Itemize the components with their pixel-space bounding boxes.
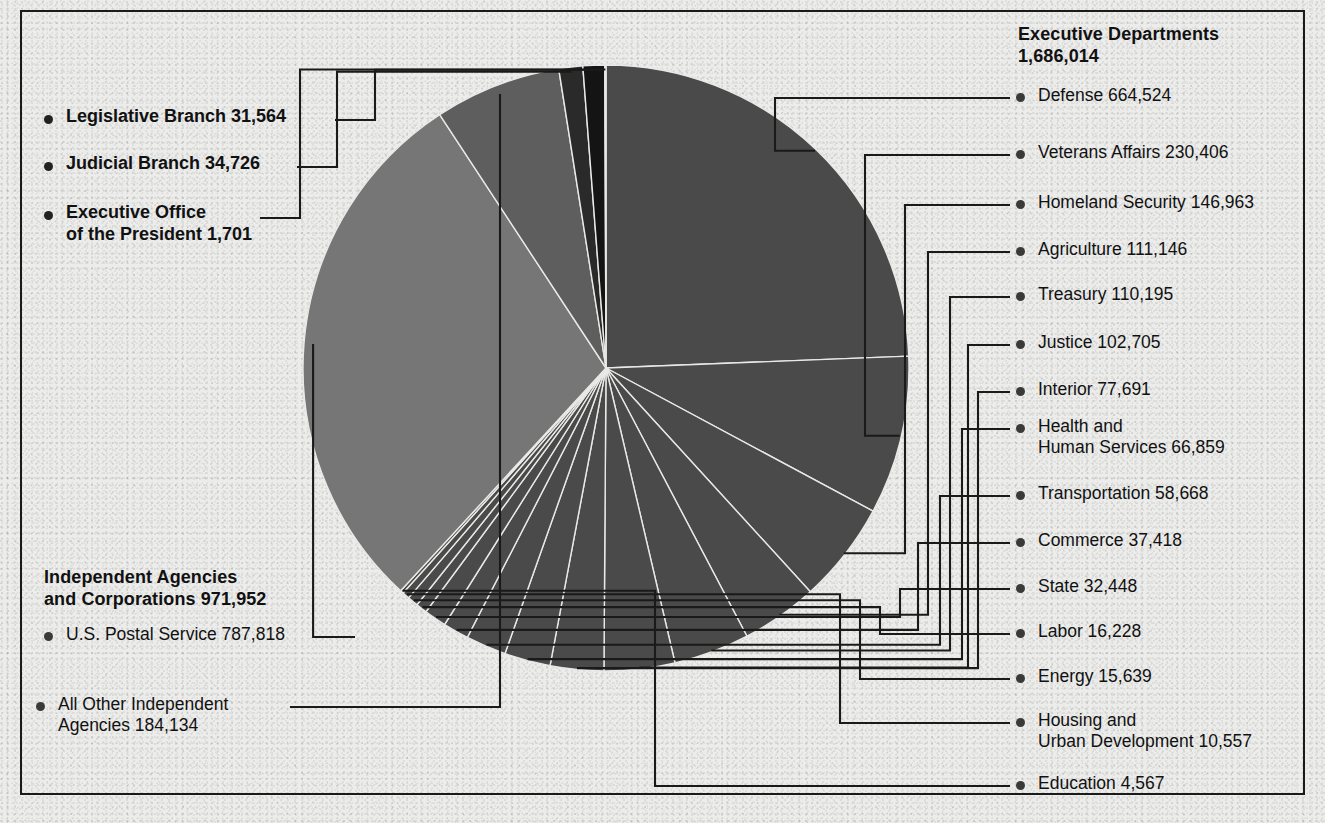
legend-item-transportation[interactable]: Transportation 58,668	[1038, 483, 1209, 504]
group-title-line1: Executive Departments	[1018, 24, 1219, 46]
group-title-executive-departments: Executive Departments 1,686,014	[1018, 24, 1219, 68]
legend-bullet-interior	[1016, 387, 1025, 396]
legend-bullet-us-postal-service	[44, 632, 53, 641]
legend-item-health-and-human-services[interactable]: Health and Human Services 66,859	[1038, 416, 1225, 459]
leader-line-defense	[775, 98, 1010, 151]
legend-item-hhs-line2: Human Services 66,859	[1038, 437, 1225, 458]
legend-item-labor[interactable]: Labor 16,228	[1038, 621, 1141, 642]
legend-bullet-all-other-independent-agencies	[36, 702, 45, 711]
legend-item-defense[interactable]: Defense 664,524	[1038, 85, 1171, 106]
legend-bullet-treasury	[1016, 292, 1025, 301]
legend-item-education[interactable]: Education 4,567	[1038, 773, 1165, 794]
legend-item-aoia-line2: Agencies 184,134	[58, 715, 228, 736]
legend-item-legislative-branch[interactable]: Legislative Branch 31,564	[66, 106, 286, 128]
legend-item-interior[interactable]: Interior 77,691	[1038, 379, 1151, 400]
legend-item-agriculture[interactable]: Agriculture 111,146	[1038, 239, 1187, 260]
legend-item-veterans-affairs[interactable]: Veterans Affairs 230,406	[1038, 142, 1228, 163]
legend-bullet-legislative-branch	[44, 115, 53, 124]
legend-item-homeland-security[interactable]: Homeland Security 146,963	[1038, 192, 1254, 213]
legend-bullet-transportation	[1016, 491, 1025, 500]
legend-bullet-energy	[1016, 674, 1025, 683]
group-title-ia-line1: Independent Agencies	[44, 567, 266, 589]
group-title-independent-agencies: Independent Agencies and Corporations 97…	[44, 567, 266, 611]
chart-stage: Executive Departments 1,686,014 Defense …	[0, 0, 1325, 823]
group-title-line2: 1,686,014	[1018, 46, 1219, 68]
legend-bullet-veterans-affairs	[1016, 150, 1025, 159]
legend-bullet-executive-office-of-the-president	[44, 211, 53, 220]
legend-bullet-homeland-security	[1016, 200, 1025, 209]
legend-bullet-housing-and-urban-development	[1016, 718, 1025, 727]
legend-bullet-defense	[1016, 93, 1025, 102]
legend-bullet-education	[1016, 781, 1025, 790]
legend-item-eop-line1: Executive Office	[66, 202, 252, 224]
legend-item-hud-line2: Urban Development 10,557	[1038, 731, 1252, 752]
legend-item-energy[interactable]: Energy 15,639	[1038, 666, 1152, 687]
legend-bullet-health-and-human-services	[1016, 424, 1025, 433]
pie-slices	[303, 65, 909, 671]
legend-item-commerce[interactable]: Commerce 37,418	[1038, 530, 1182, 551]
legend-item-housing-and-urban-development[interactable]: Housing and Urban Development 10,557	[1038, 710, 1252, 753]
legend-item-hhs-line1: Health and	[1038, 416, 1225, 437]
legend-item-executive-office-of-the-president[interactable]: Executive Office of the President 1,701	[66, 202, 252, 246]
legend-item-hud-line1: Housing and	[1038, 710, 1252, 731]
legend-item-eop-line2: of the President 1,701	[66, 224, 252, 246]
legend-bullet-state	[1016, 584, 1025, 593]
legend-bullet-commerce	[1016, 538, 1025, 547]
legend-item-all-other-independent-agencies[interactable]: All Other Independent Agencies 184,134	[58, 694, 228, 737]
legend-item-justice[interactable]: Justice 102,705	[1038, 332, 1161, 353]
legend-item-aoia-line1: All Other Independent	[58, 694, 228, 715]
legend-item-state[interactable]: State 32,448	[1038, 576, 1137, 597]
legend-item-us-postal-service[interactable]: U.S. Postal Service 787,818	[66, 624, 285, 645]
pie-slice-defense[interactable]	[606, 65, 909, 368]
legend-item-judicial-branch[interactable]: Judicial Branch 34,726	[66, 153, 260, 175]
legend-bullet-justice	[1016, 340, 1025, 349]
legend-bullet-agriculture	[1016, 247, 1025, 256]
legend-bullet-labor	[1016, 629, 1025, 638]
legend-bullet-judicial-branch	[44, 162, 53, 171]
legend-item-treasury[interactable]: Treasury 110,195	[1038, 284, 1173, 305]
group-title-ia-line2: and Corporations 971,952	[44, 589, 266, 611]
